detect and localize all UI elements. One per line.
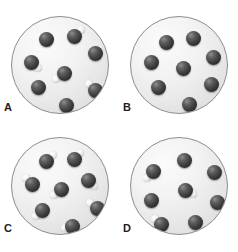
dark-atom (182, 97, 197, 112)
vessel-a[interactable] (11, 16, 109, 114)
dark-atom (39, 154, 54, 169)
dark-atom (176, 61, 191, 76)
panel-label-d: D (123, 223, 131, 234)
dark-atom (186, 31, 201, 46)
dark-atom (144, 55, 159, 70)
dark-atom (25, 177, 40, 192)
dark-atom (88, 46, 103, 61)
dark-atom (90, 201, 105, 216)
dark-atom (207, 165, 222, 180)
dark-atom (31, 80, 46, 95)
dark-atom (88, 83, 103, 98)
dark-atom (144, 193, 159, 208)
vessel-b[interactable] (130, 16, 228, 114)
panel-label-b: B (123, 102, 131, 113)
panel-d[interactable]: D (119, 131, 238, 252)
dark-atom (154, 217, 169, 232)
dark-atom (57, 66, 72, 81)
dark-atom (24, 55, 39, 70)
panel-c[interactable]: C (0, 131, 119, 252)
panel-label-c: C (4, 223, 12, 234)
dark-atom (188, 215, 203, 230)
dark-atom (151, 80, 166, 95)
dark-atom (54, 182, 69, 197)
panel-a[interactable]: A (0, 10, 119, 131)
dark-atom (81, 173, 96, 188)
dark-atom (67, 152, 82, 167)
panel-grid: A B C D (0, 10, 238, 252)
vessel-c[interactable] (11, 137, 109, 235)
dark-atom (67, 29, 82, 44)
dark-atom (178, 183, 193, 198)
dark-atom (204, 77, 219, 92)
dark-atom (39, 32, 54, 47)
dark-atom (65, 219, 80, 234)
dark-atom (206, 50, 221, 65)
particle-diagram-figure: A B C D (0, 0, 238, 252)
cropped-top-caption (0, 0, 238, 9)
dark-atom (159, 35, 174, 50)
dark-atom (146, 164, 161, 179)
dark-atom (177, 153, 192, 168)
dark-atom (35, 203, 50, 218)
panel-b[interactable]: B (119, 10, 238, 131)
dark-atom (59, 98, 74, 113)
panel-label-a: A (4, 102, 12, 113)
dark-atom (210, 195, 225, 210)
vessel-d[interactable] (130, 137, 228, 235)
